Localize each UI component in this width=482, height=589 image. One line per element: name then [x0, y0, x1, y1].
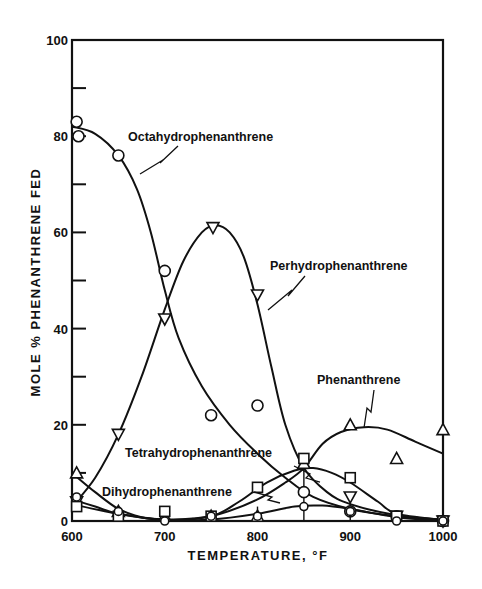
- circle-marker: [73, 493, 81, 501]
- axis-ticks: [72, 88, 86, 473]
- y-tick-label: 60: [54, 225, 68, 240]
- square-marker: [345, 473, 355, 483]
- leader-arrow-icon: [140, 146, 178, 174]
- y-axis-title: MOLE % PHENANTHRENE FED: [28, 168, 43, 397]
- x-tick-label: 700: [154, 529, 176, 544]
- circle-marker: [114, 507, 122, 515]
- circle-marker: [113, 150, 124, 161]
- square-marker: [72, 502, 82, 512]
- circle-marker: [439, 517, 447, 525]
- circle-marker: [346, 507, 354, 515]
- circle-marker: [73, 131, 84, 142]
- triangle-down-marker: [207, 223, 219, 234]
- curve-phenanthrene: [72, 427, 443, 520]
- chart: 0204060801006007008009001000 Octahydroph…: [0, 0, 482, 589]
- y-tick-label: 80: [54, 129, 68, 144]
- square-marker: [299, 453, 309, 463]
- triangle-up-marker: [344, 419, 356, 430]
- y-tick-label: 20: [54, 418, 68, 433]
- circle-marker: [298, 487, 309, 498]
- annotation-octahydrophenanthrene: Octahydrophenanthrene: [128, 130, 273, 144]
- triangle-up-marker: [437, 424, 449, 435]
- circle-marker: [393, 517, 401, 525]
- x-tick-label: 800: [247, 529, 269, 544]
- annotation-dihydrophenanthrene: Dihydrophenanthrene: [102, 485, 232, 499]
- square-marker: [160, 506, 170, 516]
- curve-octahydrophenanthrene: [72, 127, 443, 520]
- triangle-down-marker: [112, 429, 124, 440]
- axis-tick-labels: 0204060801006007008009001000: [46, 33, 457, 544]
- x-tick-label: 600: [61, 529, 83, 544]
- series-markers: [71, 116, 449, 527]
- triangle-down-marker: [252, 290, 264, 301]
- circle-marker: [159, 265, 170, 276]
- series-annotations: OctahydrophenanthrenePerhydrophenanthren…: [102, 130, 408, 503]
- circle-marker: [71, 116, 82, 127]
- annotation-perhydrophenanthrene: Perhydrophenanthrene: [270, 259, 408, 273]
- series-curves: [72, 127, 443, 521]
- triangle-down-marker: [344, 492, 356, 503]
- x-tick-label: 1000: [429, 529, 458, 544]
- circle-marker: [206, 410, 217, 421]
- square-marker: [253, 482, 263, 492]
- y-tick-label: 0: [61, 514, 68, 529]
- x-axis-title: TEMPERATURE, °F: [188, 548, 329, 563]
- leader-arrow-icon: [364, 390, 374, 428]
- y-tick-label: 40: [54, 322, 68, 337]
- leader-arrow-icon: [268, 276, 305, 310]
- y-tick-label: 100: [46, 33, 68, 48]
- annotation-phenanthrene: Phenanthrene: [317, 373, 400, 387]
- circle-marker: [161, 517, 169, 525]
- circle-marker: [300, 503, 308, 511]
- x-tick-label: 900: [339, 529, 361, 544]
- circle-marker: [254, 512, 262, 520]
- circle-marker: [252, 400, 263, 411]
- triangle-up-marker: [391, 452, 403, 463]
- annotation-tetrahydrophenanthrene: Tetrahydrophenanthrene: [125, 446, 272, 460]
- circle-marker: [207, 512, 215, 520]
